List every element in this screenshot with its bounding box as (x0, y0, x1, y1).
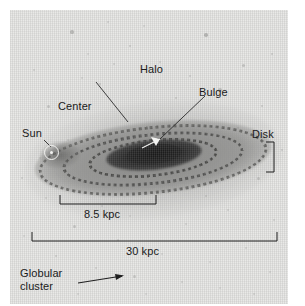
label-sun: Sun (22, 127, 42, 140)
galaxy-structure-figure: Halo Center Bulge Sun Disk 8.5 kpc 30 kp… (0, 0, 305, 306)
label-globular-cluster-line2: cluster (20, 280, 53, 292)
label-disk: Disk (252, 128, 274, 141)
annotation-labels: Halo Center Bulge Sun Disk 8.5 kpc 30 kp… (0, 0, 305, 306)
label-scale-30-kpc: 30 kpc (126, 245, 159, 258)
label-globular-cluster: Globular cluster (20, 267, 90, 292)
label-halo: Halo (140, 63, 163, 76)
label-scale-8-5-kpc: 8.5 kpc (84, 208, 120, 221)
label-globular-cluster-line1: Globular (20, 267, 62, 279)
label-bulge: Bulge (199, 86, 228, 99)
label-center: Center (58, 100, 92, 113)
sun-marker-dot (50, 151, 53, 154)
